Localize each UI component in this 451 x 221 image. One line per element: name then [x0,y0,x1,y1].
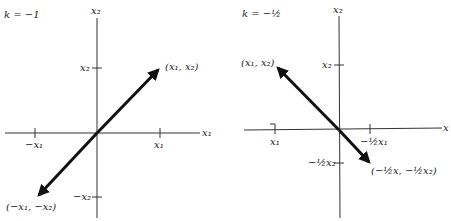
right-panel: k = −½ x₂ x x₁ −½x₁ x₂ −½x₂ (x₁, x₂) (−½… [241,4,449,218]
left-tick-label-x1: x₁ [154,139,164,150]
right-x-axis-label: x [443,122,449,133]
right-tick-label-neg-half-x1: −½x₁ [360,136,388,147]
left-tick-label-neg-x1: −x₁ [25,139,43,150]
left-vector-head-label: (x₁, x₂) [165,61,199,72]
left-vector-original [97,70,158,133]
right-x-axis [244,128,442,130]
right-vector-tail-label: (−½x, −½x₂) [371,165,437,176]
left-tick-label-neg-x2: −x₂ [73,191,91,202]
left-vector-scaled [39,133,97,195]
right-tick-label-x1: x₁ [270,136,280,147]
left-y-axis-label: x₂ [91,5,101,16]
left-k-label: k = −1 [4,9,40,20]
scalar-multiplication-diagram: k = −1 x₂ x₁ x₁ −x₁ x₂ −x₂ (x₁, x₂) (−x₁… [0,0,451,221]
right-y-axis-label: x₂ [333,4,343,15]
right-vector-head-label: (x₁, x₂) [241,57,275,68]
right-tick-label-neg-half-x2: −½x₂ [308,157,336,168]
right-y-axis [339,16,340,218]
right-vector-original [278,68,339,130]
left-tick-label-x2: x₂ [80,62,90,73]
right-tick-label-x2: x₂ [322,59,332,70]
right-k-label: k = −½ [242,8,281,19]
left-panel: k = −1 x₂ x₁ x₁ −x₁ x₂ −x₂ (x₁, x₂) (−x₁… [4,5,212,218]
left-vector-tail-label: (−x₁, −x₂) [6,201,56,212]
left-x-axis-label: x₁ [202,127,212,138]
